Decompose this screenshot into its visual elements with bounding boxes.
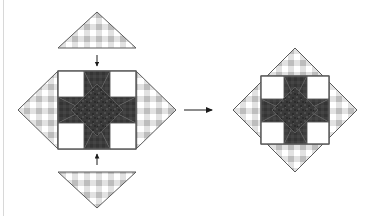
setting-triangle-left[interactable] [18,71,58,149]
page-margin-rule [3,0,4,216]
setting-triangle-top[interactable] [58,12,136,48]
quilt-assembly-diagram [0,0,384,216]
setting-triangle-right[interactable] [136,71,176,149]
corner-patch-top-right [110,71,136,97]
corner-patch-bottom-right [110,123,136,149]
corner-patch-bottom-left [58,123,84,149]
corner-patch-top-left [58,71,84,97]
setting-triangle-bottom[interactable] [58,172,136,208]
step-2-completed-block[interactable] [233,48,357,172]
sawtooth-star-block-right[interactable] [261,76,329,144]
step-1-assembly [18,12,176,208]
diagram-canvas [0,0,384,216]
sawtooth-star-block-left[interactable] [58,71,136,149]
